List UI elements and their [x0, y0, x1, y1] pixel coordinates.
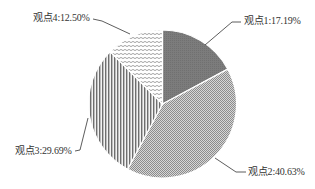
leader-line-4 — [93, 19, 130, 34]
slice-label-viewpoint-4: 观点4:12.50% — [33, 12, 90, 24]
pie-slices — [89, 30, 237, 178]
leader-line-2 — [215, 158, 246, 172]
pie-chart — [0, 0, 315, 189]
slice-label-viewpoint-2: 观点2:40.63% — [248, 166, 305, 178]
slice-label-viewpoint-1: 观点1:17.19% — [244, 15, 301, 27]
leader-line-1 — [205, 22, 241, 45]
slice-label-viewpoint-3: 观点3:29.69% — [15, 145, 72, 157]
leader-line-3 — [75, 118, 88, 151]
